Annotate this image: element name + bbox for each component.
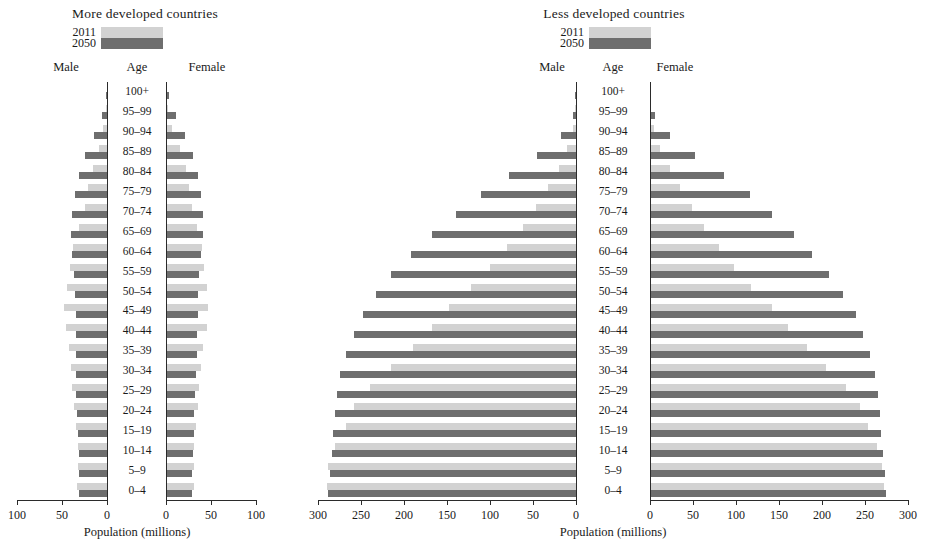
age-group-label: 30–34 <box>110 364 164 376</box>
bar-female-2050 <box>650 251 812 258</box>
axis-tick-label: 300 <box>309 508 327 523</box>
column-header-female: Female <box>657 60 694 75</box>
female-half-less-developed <box>650 82 908 500</box>
axis-tick <box>256 500 257 505</box>
panel-title-more-developed: More developed countries <box>0 6 290 22</box>
bar-female-2011 <box>166 423 196 430</box>
axis-tick <box>17 500 18 505</box>
bar-female-2050 <box>166 191 201 198</box>
column-header-male: Male <box>539 60 565 75</box>
population-pyramid-figure: More developed countries 2011 2050 Male … <box>0 0 928 548</box>
bar-female-2011 <box>650 304 772 311</box>
legend-swatch-2011 <box>101 27 163 38</box>
bar-female-2011 <box>166 165 186 172</box>
bar-male-2011 <box>88 184 107 191</box>
axis-tick-label: 0 <box>163 508 169 523</box>
age-group-label: 85–89 <box>579 145 647 157</box>
bar-male-2011 <box>79 224 107 231</box>
age-group-label: 55–59 <box>110 265 164 277</box>
bar-female-2050 <box>650 172 724 179</box>
column-headers-more-developed: Male Age Female <box>0 60 290 76</box>
axis-tick <box>211 500 212 505</box>
age-group-label: 0–4 <box>110 484 164 496</box>
bar-male-2050 <box>391 271 576 278</box>
bar-female-2050 <box>166 311 198 318</box>
bar-male-2050 <box>354 331 576 338</box>
bar-female-2050 <box>650 211 772 218</box>
age-label-column-less-developed: 0–45–910–1415–1920–2425–2930–3435–3940–4… <box>579 82 647 500</box>
bar-male-2050 <box>79 470 107 477</box>
bar-female-2050 <box>166 430 194 437</box>
age-group-label: 15–19 <box>110 424 164 436</box>
male-half-less-developed <box>318 82 576 500</box>
age-group-label: 100+ <box>579 85 647 97</box>
bar-male-2011 <box>72 384 107 391</box>
bar-male-2050 <box>77 410 107 417</box>
age-group-label: 10–14 <box>579 444 647 456</box>
bar-male-2011 <box>328 463 576 470</box>
bar-female-2011 <box>650 403 860 410</box>
bar-male-2011 <box>64 304 107 311</box>
bar-female-2011 <box>166 284 207 291</box>
bar-female-2050 <box>166 271 199 278</box>
bar-female-2011 <box>166 324 207 331</box>
bar-female-2011 <box>650 244 719 251</box>
age-group-label: 80–84 <box>110 165 164 177</box>
axis-tick <box>447 500 448 505</box>
age-group-label: 60–64 <box>110 245 164 257</box>
age-group-label: 25–29 <box>579 384 647 396</box>
axis-tick <box>490 500 491 505</box>
female-axis-spine-less-developed <box>650 82 651 500</box>
bar-female-2011 <box>650 264 734 271</box>
bar-male-2011 <box>73 244 107 251</box>
panel-title-less-developed: Less developed countries <box>300 6 928 22</box>
bar-female-2011 <box>650 284 751 291</box>
bar-female-2050 <box>650 291 843 298</box>
axis-tick-label: 100 <box>8 508 26 523</box>
bar-male-2011 <box>71 364 107 371</box>
age-group-label: 45–49 <box>110 304 164 316</box>
bar-male-2011 <box>536 204 576 211</box>
column-header-male: Male <box>53 60 79 75</box>
legend-label-2050: 2050 <box>550 38 584 49</box>
legend-swatch-2011 <box>589 27 651 38</box>
bar-female-2050 <box>650 152 695 159</box>
bar-female-2050 <box>650 191 750 198</box>
bar-female-2011 <box>650 384 846 391</box>
bar-male-2050 <box>72 251 107 258</box>
bar-female-2050 <box>166 450 193 457</box>
bar-male-2011 <box>335 443 576 450</box>
bar-female-2050 <box>650 331 863 338</box>
bar-male-2050 <box>72 211 107 218</box>
bar-male-2011 <box>507 244 576 251</box>
bar-female-2050 <box>650 410 880 417</box>
bar-female-2050 <box>166 251 201 258</box>
bar-female-2011 <box>166 384 199 391</box>
bar-female-2011 <box>650 483 884 490</box>
plot-area-more-developed: 0–45–910–1415–1920–2425–2930–3435–3940–4… <box>0 82 290 500</box>
column-header-age: Age <box>127 60 148 75</box>
age-group-label: 65–69 <box>110 225 164 237</box>
bar-male-2050 <box>340 371 577 378</box>
bar-female-2011 <box>650 364 826 371</box>
bar-male-2011 <box>471 284 576 291</box>
bar-female-2011 <box>650 184 680 191</box>
axis-tick-label: 50 <box>56 508 68 523</box>
bar-female-2011 <box>650 204 692 211</box>
bar-male-2011 <box>548 184 576 191</box>
axis-tick <box>166 500 167 505</box>
bar-male-2050 <box>79 172 107 179</box>
axis-tick <box>361 500 362 505</box>
bar-female-2050 <box>650 311 856 318</box>
bar-female-2011 <box>166 344 203 351</box>
bar-female-2050 <box>166 152 193 159</box>
bar-female-2050 <box>166 331 197 338</box>
bar-female-2011 <box>650 224 704 231</box>
bar-male-2011 <box>93 165 107 172</box>
column-headers-less-developed: Male Age Female <box>300 60 928 76</box>
bar-female-2050 <box>166 132 185 139</box>
bar-male-2011 <box>67 284 108 291</box>
bar-female-2050 <box>650 351 870 358</box>
axis-tick <box>736 500 737 505</box>
bar-female-2050 <box>650 450 883 457</box>
